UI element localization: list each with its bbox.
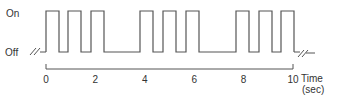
tick-label: 2	[93, 74, 99, 85]
waveform	[46, 11, 294, 52]
tick-label: 4	[142, 74, 148, 85]
time-unit-label: (sec)	[302, 84, 324, 95]
time-label: Time	[301, 73, 323, 84]
on-label: On	[6, 8, 19, 19]
right-break-marks	[294, 50, 315, 57]
axis-labels: On Off	[5, 8, 19, 58]
time-axis	[46, 64, 293, 69]
pulse-train-diagram: On Off 0246810 Time (sec)	[0, 0, 341, 102]
tick-label: 0	[43, 74, 49, 85]
off-label: Off	[5, 47, 18, 58]
tick-label: 8	[241, 74, 247, 85]
left-break-marks	[30, 48, 46, 55]
tick-labels: 0246810	[43, 74, 299, 85]
tick-label: 10	[287, 74, 299, 85]
tick-label: 6	[191, 74, 197, 85]
